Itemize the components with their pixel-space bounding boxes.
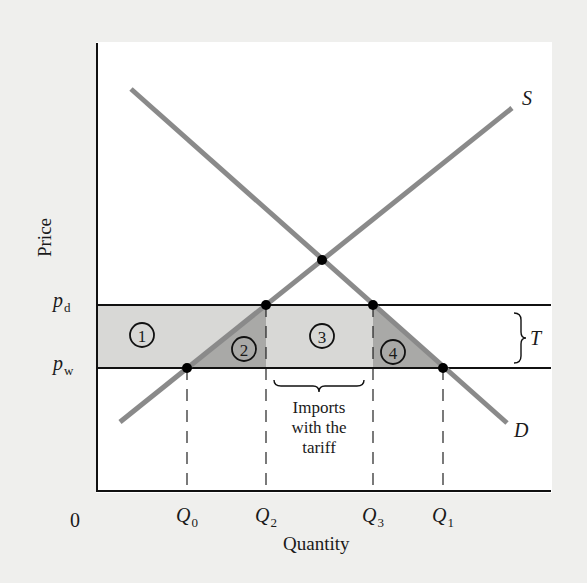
q0-main: Q xyxy=(176,504,190,526)
imports-note-line2: with the xyxy=(279,418,359,438)
imports-note: Imports with the tariff xyxy=(279,398,359,458)
y-axis-label: Price xyxy=(35,208,54,268)
q3-subscript: 3 xyxy=(377,515,384,530)
area-1-label: 1 xyxy=(138,327,147,346)
pw-subscript: w xyxy=(64,363,73,378)
point-demand-at-pd xyxy=(368,300,378,310)
x-axis-label: Quantity xyxy=(283,534,350,553)
area-4-label: 4 xyxy=(389,344,398,363)
q3-main: Q xyxy=(362,504,376,526)
diagram-canvas: 1 2 3 4 xyxy=(0,0,587,583)
point-demand-at-pw xyxy=(438,363,448,373)
quantity-label-q2: Q2 xyxy=(255,505,277,525)
q2-subscript: 2 xyxy=(270,515,277,530)
price-label-pd: pd xyxy=(53,290,71,310)
origin-label: 0 xyxy=(70,510,80,530)
q1-main: Q xyxy=(432,504,446,526)
supply-label: S xyxy=(522,88,532,108)
point-supply-at-pd xyxy=(261,300,271,310)
q0-subscript: 0 xyxy=(191,515,198,530)
pd-main: p xyxy=(53,289,63,311)
q2-main: Q xyxy=(255,504,269,526)
point-equilibrium xyxy=(317,255,327,265)
quantity-label-q3: Q3 xyxy=(362,505,384,525)
pw-main: p xyxy=(53,352,63,374)
quantity-label-q0: Q0 xyxy=(176,505,198,525)
quantity-label-q1: Q1 xyxy=(432,505,454,525)
price-label-pw: pw xyxy=(53,353,73,373)
q1-subscript: 1 xyxy=(447,515,454,530)
point-supply-at-pw xyxy=(182,363,192,373)
demand-label: D xyxy=(514,420,528,440)
tariff-label: T xyxy=(530,328,541,348)
area-2-label: 2 xyxy=(240,341,249,360)
tariff-diagram: 1 2 3 4 Price Quantity 0 pd pw Q0 Q2 Q3 … xyxy=(0,0,587,583)
imports-note-line1: Imports xyxy=(279,398,359,418)
imports-note-line3: tariff xyxy=(279,438,359,458)
area-3-label: 3 xyxy=(318,328,327,347)
pd-subscript: d xyxy=(64,300,71,315)
